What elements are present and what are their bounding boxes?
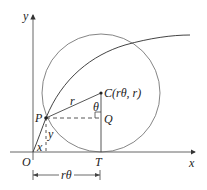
point-p-dot xyxy=(44,116,48,120)
radius-label: r xyxy=(70,95,75,107)
cycloid-diagram: y x O P C(rθ, r) Q T r θ x y rθ xyxy=(0,0,207,190)
x-length-label: x xyxy=(37,141,42,153)
point-t-label: T xyxy=(95,156,102,168)
y-axis-label: y xyxy=(23,10,28,22)
point-c-dot xyxy=(99,91,102,94)
dim-arrow-left xyxy=(33,173,38,177)
point-c-label: C(rθ, r) xyxy=(104,87,141,99)
arc-length-label: rθ xyxy=(59,169,74,181)
dim-arrow-right xyxy=(95,173,100,177)
angle-label: θ xyxy=(93,101,99,113)
point-q-label: Q xyxy=(104,113,113,125)
x-axis-label: x xyxy=(189,157,194,169)
point-p-label: P xyxy=(35,112,42,124)
origin-label: O xyxy=(22,156,31,168)
y-length-label: y xyxy=(48,128,53,140)
